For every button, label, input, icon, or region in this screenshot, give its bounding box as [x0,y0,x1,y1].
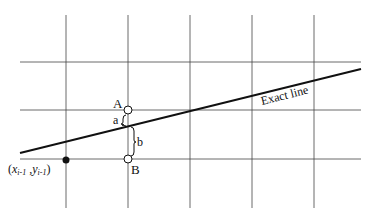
label-dist-b: b [137,135,143,149]
brace-a [121,115,126,126]
previous-point-marker [63,157,70,164]
label-previous-point: (xi-1 ,yi-1) [8,162,50,177]
brace-b [131,127,136,156]
point-a-marker [124,106,132,114]
label-exact-line: Exact line [259,83,309,108]
label-a: A [113,96,123,111]
exact-line [20,69,361,153]
bresenham-diagram: A B a b Exact line (xi-1 ,yi-1) [0,0,371,221]
label-dist-a: a [113,113,119,127]
label-b: B [131,162,140,177]
